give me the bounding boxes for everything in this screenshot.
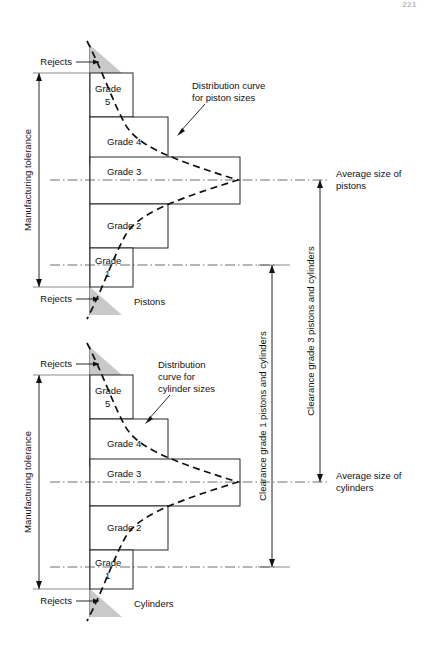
page-number: 221 [402, 0, 417, 9]
panel-cylinders: Grade 5 Grade 4 Grade 3 Grade 2 Grade 1 … [22, 343, 402, 621]
cylinders-average-label-line2: cylinders [336, 482, 374, 493]
cylinders-grade-5-label-line2: 5 [105, 398, 110, 409]
cylinders-grade-3-label: Grade 3 [107, 468, 141, 479]
cylinders-curve-label-line3: cylinder sizes [158, 383, 215, 394]
clearance-grade3-dimension [317, 180, 323, 482]
figure-selective-assembly: 221 Grade 5 Grade 4 Grade 3 Grade 2 Grad… [0, 0, 431, 659]
cylinders-top-reject-area [90, 347, 122, 375]
pistons-bottom-reject-area [90, 287, 122, 315]
pistons-tolerance-label: Manufacturing tolerance [22, 129, 33, 231]
clearance-grade1-label: Clearance grade 1 pistons and cylinders [257, 331, 268, 501]
pistons-curve-label-line1: Distribution curve [192, 80, 265, 91]
pistons-grade-5-label-line2: 5 [105, 96, 110, 107]
diagram-canvas: Grade 5 Grade 4 Grade 3 Grade 2 Grade 1 … [0, 0, 431, 659]
pistons-curve-label-line2: for piston sizes [192, 92, 256, 103]
clearance-grade3-label: Clearance grade 3 pistons and cylinders [305, 246, 316, 416]
cylinders-reject-bottom-label: Rejects [40, 595, 72, 606]
cylinders-bar-grade-1 [90, 550, 133, 589]
pistons-grade-3-label: Grade 3 [107, 166, 141, 177]
cylinders-average-label-line1: Average size of [336, 470, 402, 481]
cylinders-caption: Cylinders [134, 598, 174, 609]
pistons-average-label-line2: pistons [336, 180, 366, 191]
pistons-bar-grade-1 [90, 248, 133, 287]
cylinders-curve-label-line1: Distribution [158, 359, 206, 370]
pistons-grade-1-label-line1: Grade [95, 255, 121, 266]
cylinders-reject-top-label: Rejects [40, 358, 72, 369]
cylinders-curve-label-line2: curve for [158, 371, 195, 382]
cylinders-grade-2-label: Grade 2 [107, 522, 141, 533]
pistons-top-reject-area [90, 45, 122, 73]
pistons-caption: Pistons [134, 296, 165, 307]
pistons-reject-top-label: Rejects [40, 56, 72, 67]
cylinders-bar-grade-3 [90, 459, 240, 506]
cylinders-tolerance-label: Manufacturing tolerance [22, 431, 33, 533]
pistons-curve-callout-leader [177, 104, 205, 136]
pistons-reject-bottom-label: Rejects [40, 293, 72, 304]
pistons-average-label-line1: Average size of [336, 168, 402, 179]
panel-pistons: Grade 5 Grade 4 Grade 3 Grade 2 Grade 1 … [22, 41, 402, 319]
pistons-bar-grade-3 [90, 157, 240, 204]
cylinders-bottom-reject-area [90, 589, 122, 617]
cylinders-grade-1-label-line1: Grade [95, 557, 121, 568]
pistons-grade-2-label: Grade 2 [107, 220, 141, 231]
